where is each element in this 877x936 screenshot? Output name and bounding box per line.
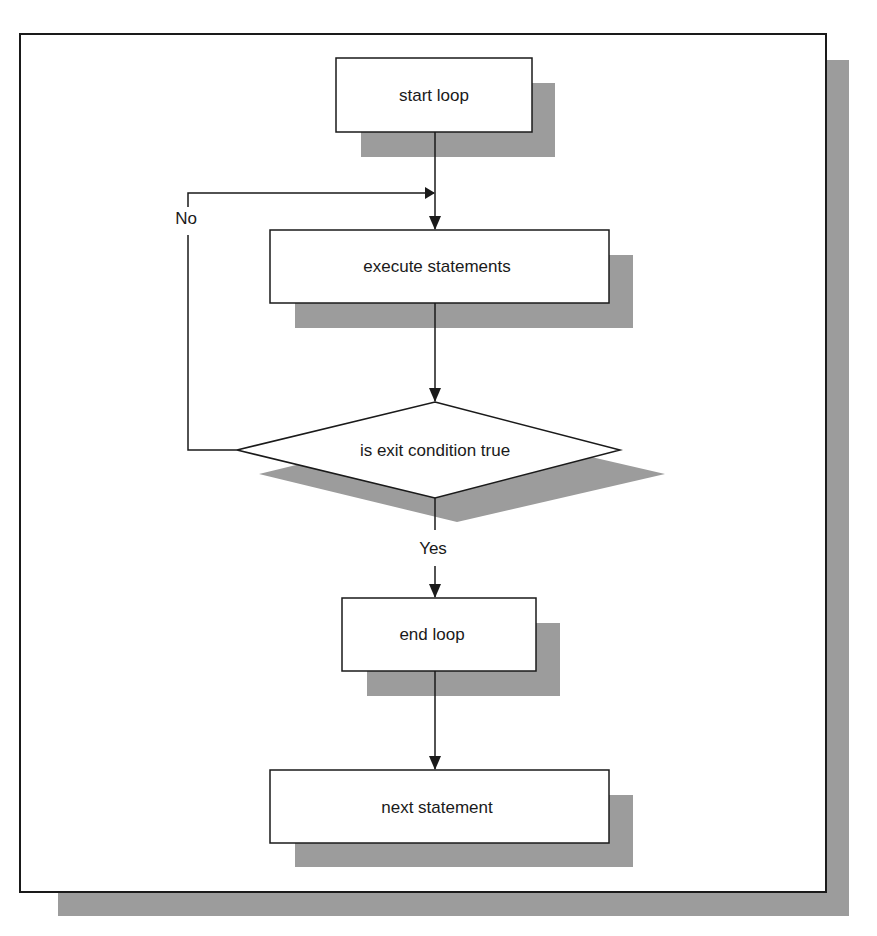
node-label: execute statements [363, 257, 510, 276]
edge-label-yes: Yes [419, 539, 447, 558]
edge-label-no: No [175, 209, 197, 228]
node-execute-statements: execute statements [270, 230, 633, 328]
node-end-loop: end loop [342, 598, 560, 696]
node-label: is exit condition true [360, 441, 510, 460]
node-start-loop: start loop [336, 58, 555, 157]
node-label: end loop [399, 625, 464, 644]
node-next-statement: next statement [270, 770, 633, 867]
node-label: next statement [381, 798, 493, 817]
node-label: start loop [399, 86, 469, 105]
flowchart-canvas: start loop execute statements is exit co… [0, 0, 877, 936]
